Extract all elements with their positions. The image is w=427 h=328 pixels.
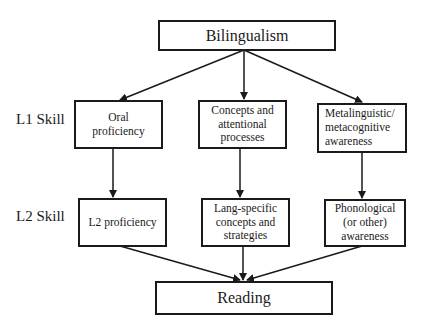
row-label-l1-skill: L1 Skill	[16, 111, 65, 128]
node-bilingualism-label: Bilingualism	[206, 26, 289, 45]
arrow-bilingualism-to-oral	[120, 50, 244, 100]
node-lang-specific: Lang-specific concepts and strategies	[201, 198, 290, 247]
node-l2-proficiency: L2 proficiency	[78, 198, 167, 247]
arrow-l2-to-reading	[120, 246, 240, 280]
node-reading: Reading	[155, 281, 333, 315]
arrow-phonological-to-reading	[247, 246, 362, 280]
node-phonological-awareness: Phonological (or other) awareness	[324, 199, 406, 247]
arrow-bilingualism-to-metalinguistic	[244, 50, 362, 102]
row-label-l2-skill: L2 Skill	[16, 208, 65, 225]
node-concepts-attentional: Concepts and attentional processes	[198, 100, 287, 149]
node-oral-proficiency: Oral proficiency	[74, 100, 163, 149]
node-bilingualism: Bilingualism	[158, 20, 336, 51]
node-metalinguistic-awareness: Metalinguistic/ metacognitive awareness	[317, 103, 407, 153]
